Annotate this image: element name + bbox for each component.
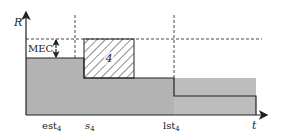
x-tick-lst4: lst4 [163,120,180,133]
resource-profile-diagram: 4 R t MEC est4 s4 lst4 [0,0,285,137]
mec-label: MEC [28,43,54,54]
x-axis-label: t [252,119,257,132]
profile-block-2 [84,78,174,115]
task-label: 4 [105,52,113,65]
task-4-block: 4 [84,39,134,78]
y-axis-label: R [13,16,22,29]
x-tick-s4: s4 [85,120,95,133]
profile-block-1 [26,58,84,115]
resource-profile [26,58,256,115]
x-tick-est4: est4 [42,120,62,133]
